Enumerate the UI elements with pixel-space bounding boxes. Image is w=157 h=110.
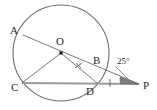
point-label-c: C	[11, 81, 18, 93]
radius-od	[61, 53, 97, 83]
center-point-marker	[59, 51, 62, 54]
point-label-d: D	[86, 85, 94, 97]
radius-oc	[22, 53, 61, 83]
point-label-b: B	[93, 54, 100, 66]
geometry-canvas: A O B C D P 25°	[0, 0, 157, 110]
angle-marker-at-p	[120, 77, 139, 84]
point-label-p: P	[143, 79, 149, 91]
point-label-o: O	[56, 35, 64, 47]
angle-label-25-degrees: 25°	[117, 56, 130, 66]
geometry-figure: A O B C D P 25°	[0, 0, 157, 110]
point-label-a: A	[10, 24, 18, 36]
